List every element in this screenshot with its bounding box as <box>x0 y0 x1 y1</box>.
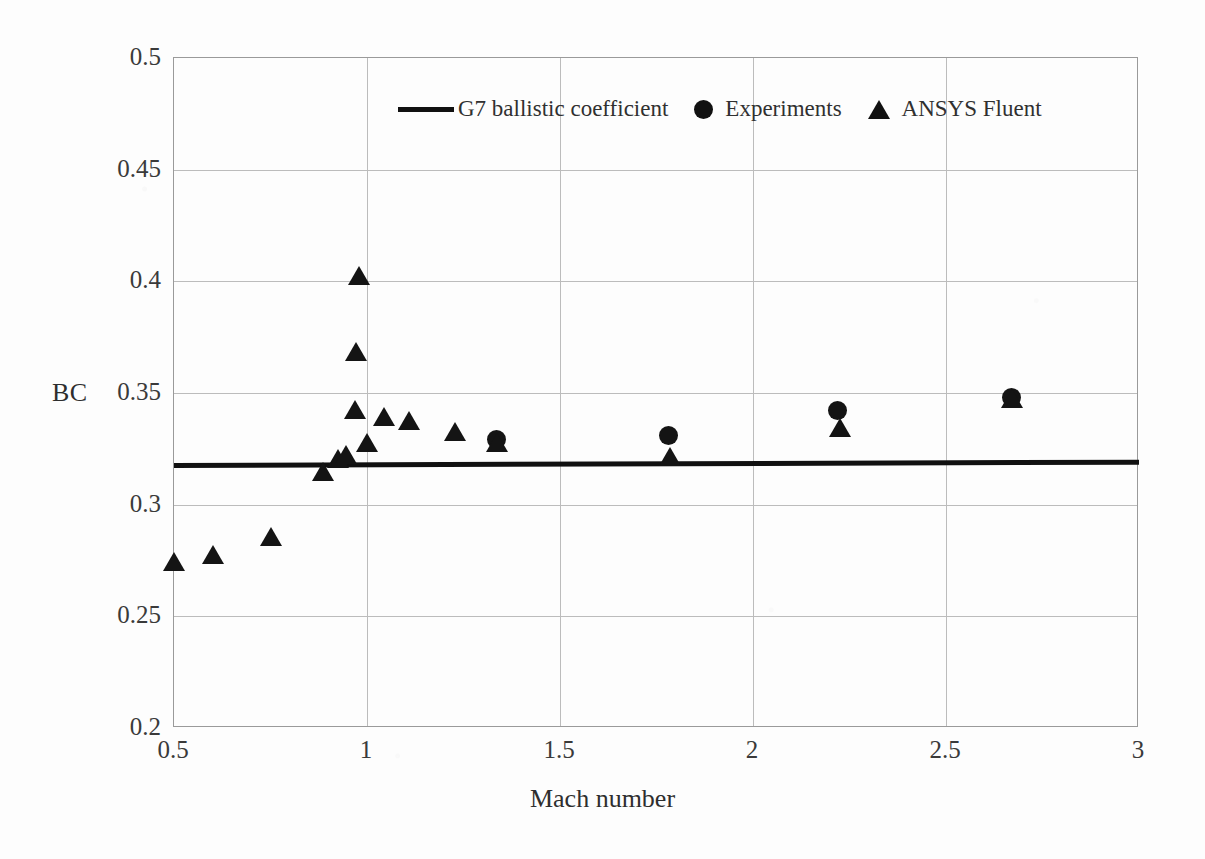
gridline-vertical <box>753 58 754 726</box>
y-axis-tick-label: 0.45 <box>117 156 161 181</box>
y-axis-tick-label: 0.35 <box>117 379 161 404</box>
gridline-vertical <box>367 58 368 726</box>
data-point-ansys-fluent <box>345 342 367 361</box>
y-axis-tick-label: 0.5 <box>130 44 161 69</box>
data-point-ansys-fluent <box>344 400 366 419</box>
x-axis-tick-label: 0.5 <box>157 737 188 762</box>
gridline-horizontal <box>174 505 1137 506</box>
data-point-ansys-fluent <box>260 527 282 546</box>
data-point-ansys-fluent <box>163 552 185 571</box>
data-point-experiments <box>659 426 678 445</box>
legend-entry: G7 ballistic coefficient <box>398 96 668 122</box>
legend-circle-marker-icon <box>694 100 713 119</box>
data-point-ansys-fluent <box>202 545 224 564</box>
data-point-ansys-fluent <box>335 445 357 464</box>
gridline-horizontal <box>174 616 1137 617</box>
chart-legend: G7 ballistic coefficientExperimentsANSYS… <box>398 96 1042 122</box>
data-point-ansys-fluent <box>829 418 851 437</box>
data-point-ansys-fluent <box>398 411 420 430</box>
x-axis-tick-label: 2.5 <box>929 737 960 762</box>
data-point-ansys-fluent <box>1001 389 1023 408</box>
legend-label: Experiments <box>725 96 841 122</box>
legend-triangle-marker-icon <box>868 100 890 119</box>
gridline-vertical <box>946 58 947 726</box>
legend-entry: ANSYS Fluent <box>868 96 1042 122</box>
x-axis-tick-label: 1.5 <box>543 737 574 762</box>
gridline-vertical <box>560 58 561 726</box>
data-point-ansys-fluent <box>373 407 395 426</box>
data-point-ansys-fluent <box>356 433 378 452</box>
legend-label: ANSYS Fluent <box>902 96 1042 122</box>
chart-figure: BC 0.20.250.30.350.40.450.5 0.511.522.53… <box>0 0 1205 859</box>
plot-area <box>173 57 1138 727</box>
data-point-ansys-fluent <box>348 266 370 285</box>
legend-entry: Experiments <box>694 96 841 122</box>
gridline-horizontal <box>174 170 1137 171</box>
x-axis-title: Mach number <box>0 784 1205 814</box>
data-point-ansys-fluent <box>659 447 681 466</box>
x-axis-tick-label: 2 <box>746 737 759 762</box>
y-axis-tick-label: 0.4 <box>130 267 161 292</box>
y-axis-tick-label: 0.3 <box>130 491 161 516</box>
x-axis-tick-label: 1 <box>360 737 373 762</box>
legend-label: G7 ballistic coefficient <box>458 96 668 122</box>
legend-line-swatch-icon <box>398 107 454 112</box>
data-point-ansys-fluent <box>444 422 466 441</box>
data-point-ansys-fluent <box>486 433 508 452</box>
gridline-horizontal <box>174 393 1137 394</box>
x-axis-tick-label: 3 <box>1132 737 1145 762</box>
y-axis-tick-label: 0.25 <box>117 602 161 627</box>
y-axis-title: BC <box>52 378 88 408</box>
gridline-horizontal <box>174 281 1137 282</box>
y-axis-tick-label: 0.2 <box>130 714 161 739</box>
